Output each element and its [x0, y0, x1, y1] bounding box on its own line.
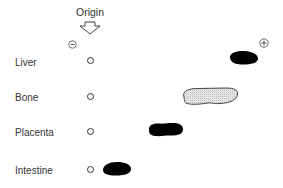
lane-label-placenta: Placenta [15, 127, 54, 138]
origin-well-liver [87, 57, 94, 64]
band-bone [180, 86, 240, 108]
origin-well-bone [87, 93, 94, 100]
band-placenta [147, 121, 185, 139]
band-liver [227, 49, 260, 66]
positive-pole-icon [259, 38, 269, 48]
origin-well-intestine [87, 166, 94, 173]
lane-label-intestine: Intestine [15, 165, 53, 176]
down-arrow-icon [79, 21, 101, 35]
lane-label-bone: Bone [15, 92, 38, 103]
lane-label-liver: Liver [15, 57, 37, 68]
origin-well-placenta [87, 128, 94, 135]
origin-label: Origin [76, 6, 104, 18]
band-intestine [101, 160, 133, 178]
negative-pole-icon [68, 40, 77, 49]
